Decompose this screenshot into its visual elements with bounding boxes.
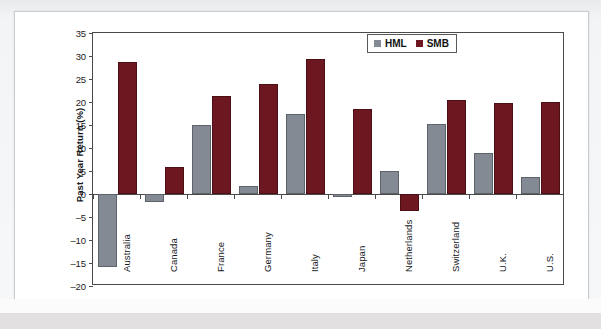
y-axis-tick-mark xyxy=(89,217,93,218)
bar-group: Netherlands xyxy=(375,33,422,284)
legend-swatch-smb-icon xyxy=(416,40,423,47)
legend-label-smb: SMB xyxy=(427,38,449,49)
x-axis-category-label: Switzerland xyxy=(450,222,461,272)
page-footer-white-band xyxy=(0,299,601,313)
x-axis-tick-mark xyxy=(375,194,376,199)
x-axis-tick-mark xyxy=(187,194,188,199)
y-axis-tick-mark xyxy=(89,263,93,264)
x-axis-tick-mark xyxy=(93,194,94,199)
y-axis-tick-mark xyxy=(89,56,93,57)
bar-chart: Past Year Return (%) AustraliaCanadaFran… xyxy=(14,11,587,299)
x-axis-category-label: U.K. xyxy=(497,253,508,272)
x-axis-tick-mark xyxy=(516,194,517,199)
page-root: Past Year Return (%) AustraliaCanadaFran… xyxy=(0,0,601,329)
x-axis-category-label: Germany xyxy=(262,232,273,272)
x-axis-tick-mark xyxy=(328,194,329,199)
y-axis-tick-mark xyxy=(89,102,93,103)
bar-hml-japan[interactable] xyxy=(333,194,352,197)
bar-hml-australia[interactable] xyxy=(98,194,117,267)
x-axis-tick-mark xyxy=(281,194,282,199)
y-axis-tick-mark xyxy=(89,33,93,34)
bar-hml-france[interactable] xyxy=(192,125,211,194)
x-axis-category-label: U.S. xyxy=(544,253,555,272)
x-axis-tick-mark xyxy=(422,194,423,199)
bar-group: Germany xyxy=(234,33,281,284)
bar-group: Canada xyxy=(140,33,187,284)
bar-group: France xyxy=(187,33,234,284)
x-axis-tick-mark xyxy=(234,194,235,199)
legend-item-smb: SMB xyxy=(416,38,449,49)
y-axis-tick-mark xyxy=(89,286,93,287)
x-axis-category-label: Netherlands xyxy=(403,220,414,272)
chart-legend: HML SMB xyxy=(367,34,457,53)
bar-hml-switzerland[interactable] xyxy=(427,124,446,194)
y-axis-tick-mark xyxy=(89,125,93,126)
y-axis-tick-mark xyxy=(89,171,93,172)
legend-item-hml: HML xyxy=(374,38,407,49)
y-axis-tick-mark xyxy=(89,194,93,195)
y-axis-tick-mark xyxy=(89,240,93,241)
bar-smb-us[interactable] xyxy=(541,102,560,194)
bar-hml-us[interactable] xyxy=(521,177,540,194)
bar-smb-netherlands[interactable] xyxy=(400,194,419,211)
bar-smb-france[interactable] xyxy=(212,96,231,194)
legend-label-hml: HML xyxy=(385,38,407,49)
bar-smb-australia[interactable] xyxy=(118,62,137,194)
bar-hml-canada[interactable] xyxy=(145,194,164,202)
bar-smb-japan[interactable] xyxy=(353,109,372,194)
bar-group: Japan xyxy=(328,33,375,284)
bar-group: Australia xyxy=(93,33,140,284)
bar-smb-canada[interactable] xyxy=(165,167,184,194)
plot-area: AustraliaCanadaFranceGermanyItalyJapanNe… xyxy=(92,32,564,285)
bar-hml-italy[interactable] xyxy=(286,114,305,194)
bar-smb-germany[interactable] xyxy=(259,84,278,194)
page-footer-gray-band xyxy=(0,313,601,329)
x-axis-category-label: Australia xyxy=(121,234,132,272)
bar-hml-netherlands[interactable] xyxy=(380,171,399,194)
y-axis-tick-mark xyxy=(89,79,93,80)
bar-groups: AustraliaCanadaFranceGermanyItalyJapanNe… xyxy=(93,33,563,284)
bar-hml-uk[interactable] xyxy=(474,153,493,194)
bar-group: Italy xyxy=(281,33,328,284)
bar-smb-uk[interactable] xyxy=(494,103,513,194)
bar-group: U.K. xyxy=(469,33,516,284)
x-axis-category-label: Canada xyxy=(168,238,179,272)
y-axis-tick-mark xyxy=(89,148,93,149)
legend-swatch-hml-icon xyxy=(374,40,381,47)
x-axis-category-label: France xyxy=(215,242,226,272)
x-axis-tick-mark xyxy=(140,194,141,199)
bar-hml-germany[interactable] xyxy=(239,186,258,194)
bar-smb-switzerland[interactable] xyxy=(447,100,466,194)
x-axis-tick-mark xyxy=(469,194,470,199)
x-axis-category-label: Italy xyxy=(309,254,320,272)
x-axis-category-label: Japan xyxy=(356,246,367,272)
bar-group: U.S. xyxy=(516,33,563,284)
bar-smb-italy[interactable] xyxy=(306,59,325,194)
bar-group: Switzerland xyxy=(422,33,469,284)
